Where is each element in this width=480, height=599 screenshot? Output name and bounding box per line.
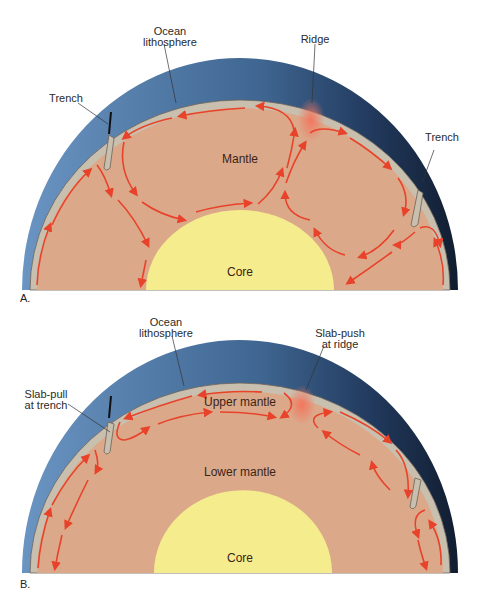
label-core: Core: [210, 267, 270, 278]
label-lower-mantle: Lower mantle: [190, 467, 290, 478]
panel-a-whole-mantle-convection: Ocean lithosphere Ridge Trench Trench Ma…: [0, 0, 480, 300]
label-mantle: Mantle: [210, 154, 270, 165]
label-ocean-lithosphere: Ocean lithosphere: [130, 26, 210, 48]
earth-cross-section-a: [0, 0, 480, 300]
label-trench-left: Trench: [40, 93, 92, 104]
label-ridge: Ridge: [290, 34, 340, 45]
label-core: Core: [210, 553, 270, 564]
panel-tag-b: B.: [20, 578, 30, 590]
label-ocean-lithosphere: Ocean lithosphere: [126, 317, 206, 339]
panel-b-layered-mantle-convection: Ocean lithosphere Slab-push at ridge Sla…: [0, 300, 480, 599]
label-trench-right: Trench: [416, 132, 468, 143]
label-upper-mantle: Upper mantle: [190, 397, 290, 408]
label-slab-pull: Slab-pull at trench: [16, 389, 76, 411]
label-slab-push: Slab-push at ridge: [300, 328, 380, 350]
